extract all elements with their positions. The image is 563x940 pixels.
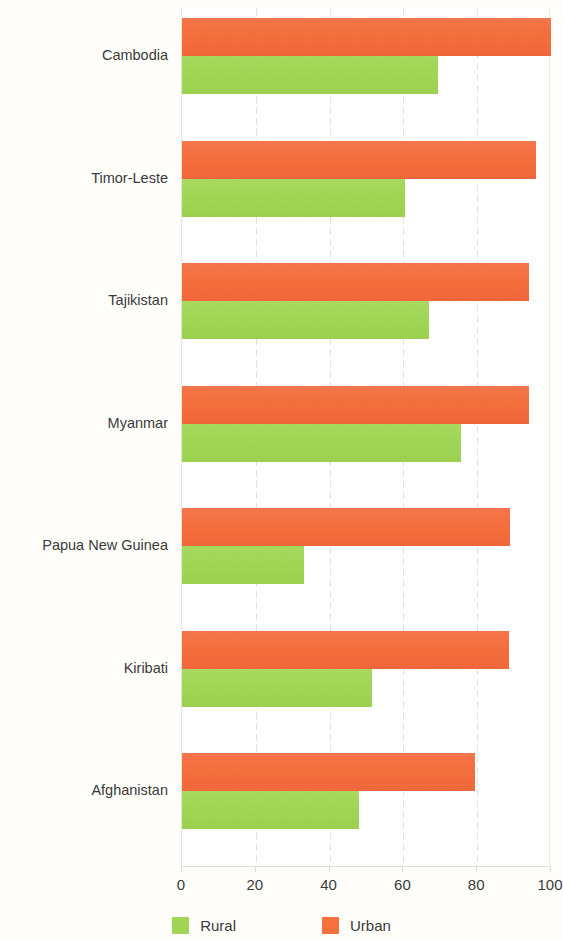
y-label-kiribati: Kiribati	[0, 660, 168, 676]
bar-rural[interactable]	[182, 791, 359, 829]
x-tick-label-60: 60	[372, 876, 432, 893]
bar-rural[interactable]	[182, 301, 429, 339]
legend-swatch-rural-icon	[172, 917, 189, 934]
bar-chart: 020406080100 CambodiaTimor-LesteTajikist…	[0, 0, 563, 940]
bar-urban[interactable]	[182, 631, 509, 669]
y-label-afghanistan: Afghanistan	[0, 782, 168, 798]
bar-group	[182, 263, 549, 339]
bar-group	[182, 508, 549, 584]
x-tick-mark-80	[476, 866, 477, 872]
chart-legend: Rural Urban	[0, 912, 563, 938]
y-label-papua-new-guinea: Papua New Guinea	[0, 537, 168, 553]
x-tick-label-0: 0	[151, 876, 211, 893]
bar-rural[interactable]	[182, 424, 461, 462]
bar-group	[182, 386, 549, 462]
plot-area	[181, 8, 550, 866]
bar-group	[182, 631, 549, 707]
bar-urban[interactable]	[182, 18, 551, 56]
bar-urban[interactable]	[182, 386, 529, 424]
legend-item-rural[interactable]: Rural	[172, 917, 236, 934]
bar-rural[interactable]	[182, 669, 372, 707]
bar-rural[interactable]	[182, 546, 304, 584]
x-tick-mark-100	[550, 866, 551, 872]
y-label-cambodia: Cambodia	[0, 47, 168, 63]
x-tick-mark-0	[181, 866, 182, 872]
x-axis-line	[181, 866, 550, 867]
legend-label-rural: Rural	[200, 917, 236, 934]
bar-urban[interactable]	[182, 141, 536, 179]
y-label-timor-leste: Timor-Leste	[0, 170, 168, 186]
x-tick-label-100: 100	[520, 876, 563, 893]
y-label-myanmar: Myanmar	[0, 415, 168, 431]
bar-group	[182, 753, 549, 829]
x-tick-label-20: 20	[225, 876, 285, 893]
bar-urban[interactable]	[182, 508, 510, 546]
legend-swatch-urban-icon	[322, 917, 339, 934]
bar-urban[interactable]	[182, 753, 475, 791]
x-tick-label-80: 80	[446, 876, 506, 893]
y-label-tajikistan: Tajikistan	[0, 292, 168, 308]
legend-item-urban[interactable]: Urban	[322, 917, 391, 934]
x-tick-label-40: 40	[299, 876, 359, 893]
bar-group	[182, 18, 549, 94]
legend-label-urban: Urban	[350, 917, 391, 934]
x-tick-mark-60	[402, 866, 403, 872]
bar-group	[182, 141, 549, 217]
x-tick-mark-20	[255, 866, 256, 872]
bar-rural[interactable]	[182, 179, 405, 217]
x-tick-mark-40	[329, 866, 330, 872]
bar-rural[interactable]	[182, 56, 438, 94]
bar-urban[interactable]	[182, 263, 529, 301]
